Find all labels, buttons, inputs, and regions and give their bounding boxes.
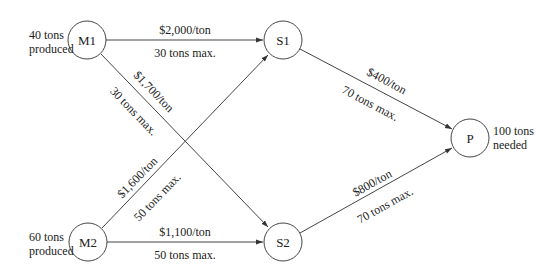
edge-s2-p bbox=[300, 148, 452, 233]
node-p-label: P bbox=[466, 131, 473, 146]
m1-note-line1: 40 tons bbox=[29, 28, 64, 42]
node-m2: M2 bbox=[69, 223, 107, 261]
edge-s1-p bbox=[300, 49, 452, 129]
node-m1: M1 bbox=[68, 21, 106, 59]
edge-m1-s1-cost: $2,000/ton bbox=[159, 23, 211, 37]
m1-note-line2: produced bbox=[29, 42, 74, 56]
node-m1-label: M1 bbox=[78, 33, 96, 48]
edge-s2-p-cost: $800/ton bbox=[350, 167, 394, 200]
node-s2: S2 bbox=[264, 223, 302, 261]
m2-note-line1: 60 tons bbox=[29, 230, 64, 244]
node-s1-label: S1 bbox=[276, 33, 290, 48]
edge-m2-s2-cost: $1,100/ton bbox=[159, 225, 211, 239]
node-s1: S1 bbox=[264, 21, 302, 59]
edge-m1-s1-capacity: 30 tons max. bbox=[154, 46, 216, 60]
node-p: P bbox=[451, 119, 489, 157]
network-diagram: $2,000/ton 30 tons max. $1,700/ton 30 to… bbox=[0, 0, 559, 273]
edge-m2-s2-capacity: 50 tons max. bbox=[154, 248, 216, 262]
edge-m1-s2 bbox=[101, 54, 268, 227]
node-m2-label: M2 bbox=[79, 235, 97, 250]
p-note-line1: 100 tons bbox=[493, 124, 534, 138]
p-note-line2: needed bbox=[493, 138, 527, 152]
edges bbox=[101, 40, 452, 242]
node-s2-label: S2 bbox=[276, 235, 290, 250]
edge-s1-p-cost: $400/ton bbox=[365, 65, 409, 97]
m2-note-line2: produced bbox=[29, 244, 74, 258]
edge-labels: $2,000/ton 30 tons max. $1,700/ton 30 to… bbox=[107, 23, 415, 262]
